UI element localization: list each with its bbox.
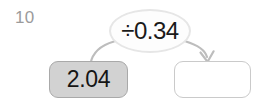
worksheet-canvas: 10 ÷0.34 2.04 bbox=[0, 0, 264, 103]
input-value-box: 2.04 bbox=[49, 61, 128, 98]
outbound-arrow-path bbox=[186, 42, 207, 58]
operator-label: ÷0.34 bbox=[121, 19, 178, 43]
output-answer-box[interactable] bbox=[174, 61, 251, 98]
input-value-text: 2.04 bbox=[67, 68, 111, 91]
operator-bubble: ÷0.34 bbox=[109, 9, 191, 53]
